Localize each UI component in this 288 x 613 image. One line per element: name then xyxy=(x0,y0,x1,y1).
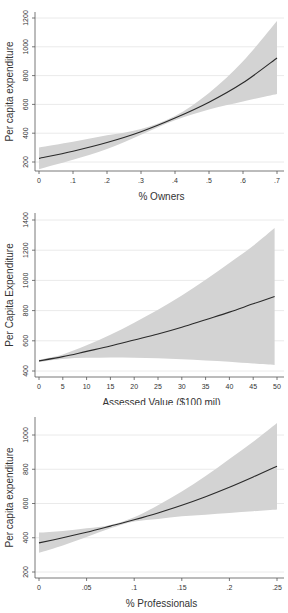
x-tick-label: 5 xyxy=(61,383,65,390)
x-tick-label: .3 xyxy=(138,177,144,184)
y-tick-label: 800 xyxy=(22,70,29,82)
x-tick-label: .2 xyxy=(226,584,232,591)
x-tick-label: .1 xyxy=(70,177,76,184)
x-tick-label: 15 xyxy=(107,383,115,390)
x-tick-label: 0 xyxy=(37,383,41,390)
confidence-band xyxy=(39,21,277,169)
confidence-band xyxy=(39,423,277,553)
chart-owners-svg: 200400600800100012000.1.2.3.4.5.6.7 % Ow… xyxy=(0,0,288,205)
y-tick-label: 800 xyxy=(22,305,29,317)
x-tick-label: 40 xyxy=(226,383,234,390)
y-tick-label: 200 xyxy=(22,566,29,578)
confidence-band xyxy=(39,228,275,365)
chart-assessed-value-svg: 4006008001000120014000510152025303540455… xyxy=(0,200,288,405)
x-tick-label: 0 xyxy=(37,177,41,184)
x-tick-label: 25 xyxy=(154,383,162,390)
y-axis-title: Per capita expenditure xyxy=(4,447,15,548)
y-tick-label: 600 xyxy=(22,498,29,510)
y-tick-label: 600 xyxy=(22,98,29,110)
chart-professionals-svg: 20040060080010000.05.1.15.2.25 % Profess… xyxy=(0,405,288,613)
chart-assessed-value: 4006008001000120014000510152025303540455… xyxy=(0,200,288,405)
y-tick-label: 1000 xyxy=(22,427,29,443)
x-tick-label: .05 xyxy=(82,584,92,591)
x-axis-title: % Professionals xyxy=(126,598,198,609)
x-tick-label: 20 xyxy=(130,383,138,390)
y-tick-label: 1200 xyxy=(22,242,29,258)
y-tick-label: 400 xyxy=(22,365,29,377)
x-tick-label: 45 xyxy=(249,383,257,390)
y-tick-label: 800 xyxy=(22,463,29,475)
y-tick-label: 1000 xyxy=(22,273,29,289)
y-axis-title: Per capita expenditure xyxy=(4,41,15,142)
y-tick-label: 400 xyxy=(22,532,29,544)
chart-professionals: 20040060080010000.05.1.15.2.25 % Profess… xyxy=(0,405,288,613)
x-tick-label: .25 xyxy=(272,584,282,591)
x-tick-label: .6 xyxy=(240,177,246,184)
chart-owners: 200400600800100012000.1.2.3.4.5.6.7 % Ow… xyxy=(0,0,288,205)
y-tick-label: 1000 xyxy=(22,39,29,55)
x-tick-label: .4 xyxy=(172,177,178,184)
y-tick-label: 200 xyxy=(22,156,29,168)
y-tick-label: 1200 xyxy=(22,10,29,26)
x-tick-label: .15 xyxy=(177,584,187,591)
x-tick-label: .1 xyxy=(131,584,137,591)
x-tick-label: 10 xyxy=(83,383,91,390)
y-tick-label: 1400 xyxy=(22,212,29,228)
x-tick-label: .5 xyxy=(206,177,212,184)
x-axis-title: Assessed Value ($100 mil) xyxy=(102,397,220,405)
y-axis-title: Per Capita Expenditure xyxy=(4,243,15,347)
y-tick-label: 400 xyxy=(22,127,29,139)
x-tick-label: .7 xyxy=(274,177,280,184)
x-tick-label: 35 xyxy=(202,383,210,390)
x-tick-label: 0 xyxy=(37,584,41,591)
x-tick-label: 30 xyxy=(178,383,186,390)
x-tick-label: .2 xyxy=(104,177,110,184)
x-tick-label: 50 xyxy=(273,383,281,390)
y-tick-label: 600 xyxy=(22,335,29,347)
